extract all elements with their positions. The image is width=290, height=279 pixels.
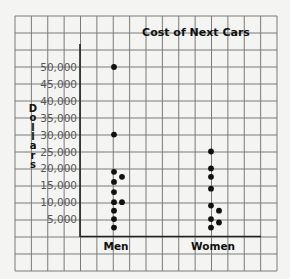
x-category-label: Women (191, 240, 235, 252)
y-tick-label: 45,000 (40, 78, 77, 90)
chart-title: Cost of Next Cars (142, 26, 250, 39)
data-point-women (208, 174, 214, 180)
y-label-letter: s (30, 159, 36, 170)
data-point-men (111, 189, 117, 195)
data-point-women (208, 203, 214, 209)
y-tick-label: 15,000 (40, 179, 77, 191)
data-point-men (111, 208, 117, 214)
data-point-men (111, 169, 117, 175)
y-tick-label: 30,000 (40, 129, 77, 141)
y-tick-label: 40,000 (40, 95, 77, 107)
data-points (111, 64, 222, 230)
axes (80, 44, 261, 237)
data-point-women (208, 166, 214, 172)
x-axis-category-labels: MenWomen (103, 240, 235, 252)
data-point-women (208, 216, 214, 222)
data-point-men (111, 179, 117, 185)
data-point-men (111, 216, 117, 222)
y-tick-label: 35,000 (40, 112, 77, 124)
y-tick-label: 10,000 (40, 196, 77, 208)
data-point-women (208, 186, 214, 192)
y-tick-label: 5,000 (47, 213, 77, 225)
data-point-women (216, 208, 222, 214)
x-category-label: Men (103, 240, 128, 252)
data-point-women (208, 225, 214, 231)
y-tick-label: 25,000 (40, 146, 77, 158)
y-axis-label: Dollars (29, 103, 37, 170)
data-point-women (208, 149, 214, 155)
y-tick-label: 20,000 (40, 162, 77, 174)
data-point-men (111, 64, 117, 70)
data-point-men (111, 225, 117, 231)
y-tick-label: 50,000 (40, 61, 77, 73)
data-point-men (111, 132, 117, 138)
grid-lines (15, 16, 277, 271)
data-point-men (111, 199, 117, 205)
data-point-women (216, 220, 222, 226)
data-point-men (119, 199, 125, 205)
dot-plot-chart: Cost of Next Cars Dollars 5,00010,00015,… (0, 0, 290, 279)
y-axis-tick-labels: 5,00010,00015,00020,00025,00030,00035,00… (40, 61, 77, 225)
data-point-men (119, 174, 125, 180)
